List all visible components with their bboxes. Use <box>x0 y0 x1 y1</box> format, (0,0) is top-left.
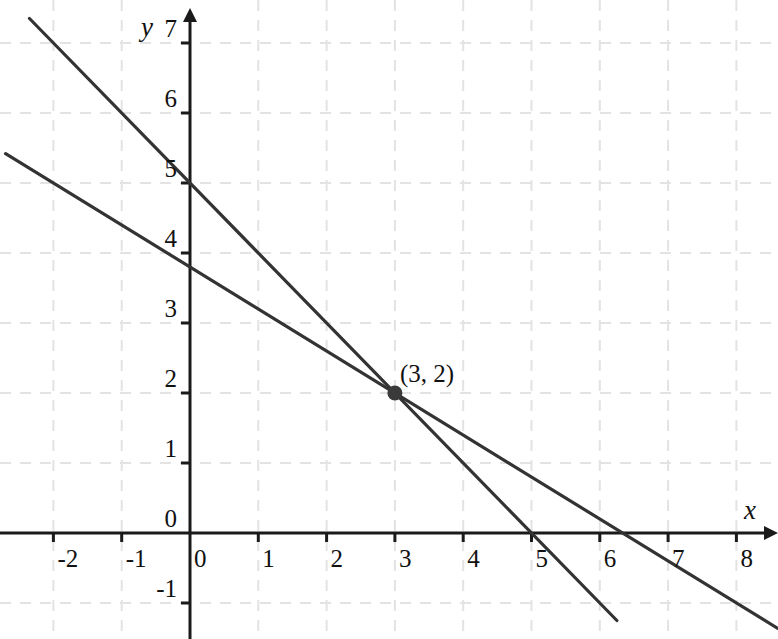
x-axis-arrow-icon <box>764 526 778 540</box>
x-tick-label: 7 <box>672 546 685 571</box>
y-axis-arrow-icon <box>183 8 197 22</box>
chart-canvas: -2-1012345678 -101234567 x y (3, 2) <box>0 0 778 639</box>
y-tick-label: 2 <box>0 366 177 391</box>
x-tick-label: -2 <box>57 546 78 571</box>
y-tick-label: 6 <box>0 86 177 111</box>
x-axis-label: x <box>744 497 756 524</box>
y-tick-label: 0 <box>0 506 177 531</box>
intersection-point-label: (3, 2) <box>400 361 454 386</box>
x-tick-label: 2 <box>331 546 344 571</box>
y-tick-label: 4 <box>0 226 177 251</box>
x-tick-label: -1 <box>126 546 147 571</box>
y-tick-label: 5 <box>0 156 177 181</box>
y-tick-label: 3 <box>0 296 177 321</box>
x-tick-label: 5 <box>536 546 549 571</box>
x-tick-label: 0 <box>194 546 207 571</box>
x-tick-label: 8 <box>740 546 753 571</box>
intersection-point-marker <box>387 386 402 401</box>
x-tick-label: 3 <box>399 546 412 571</box>
marker-layer <box>387 386 402 401</box>
y-tick-label: 1 <box>0 436 177 461</box>
y-axis-label: y <box>141 14 153 41</box>
x-tick-label: 1 <box>262 546 275 571</box>
y-tick-label: -1 <box>0 576 177 601</box>
x-tick-label: 6 <box>604 546 617 571</box>
x-tick-label: 4 <box>467 546 480 571</box>
